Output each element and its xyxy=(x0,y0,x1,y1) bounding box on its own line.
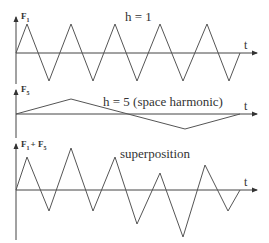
waveform-diagram: F1 h = 1 t F5 h = 5 (space harmonic) t F… xyxy=(0,0,269,243)
plot-title: h = 5 (space harmonic) xyxy=(103,94,223,109)
plot-title: superposition xyxy=(120,146,191,161)
plot-fundamental: F1 h = 1 t xyxy=(16,9,257,84)
y-axis-label: F1+ F5 xyxy=(21,139,46,151)
y-axis-label: F1 xyxy=(21,11,30,23)
waveform-superposition xyxy=(16,148,240,237)
x-axis-label: t xyxy=(244,99,248,113)
plot-fifth-harmonic: F5 h = 5 (space harmonic) t xyxy=(16,84,257,138)
x-axis-label: t xyxy=(244,175,248,189)
x-axis-label: t xyxy=(244,38,248,52)
plot-title: h = 1 xyxy=(125,9,152,24)
y-axis-label: F5 xyxy=(21,84,30,96)
plot-superposition: F1+ F5 superposition t xyxy=(16,139,257,240)
